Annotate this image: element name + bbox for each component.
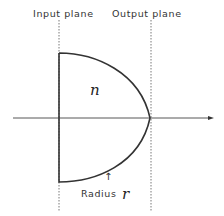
axis-arrow-icon <box>208 116 214 120</box>
lens-outline <box>59 53 150 182</box>
radius-symbol: r <box>122 185 129 203</box>
refractive-index-label: n <box>90 81 100 99</box>
radius-label: Radius <box>81 188 116 199</box>
input-plane-label: Input plane <box>33 8 94 19</box>
output-plane-label: Output plane <box>112 8 182 19</box>
lens-diagram <box>0 0 224 216</box>
radius-arrow-icon: ↑ <box>104 171 113 182</box>
